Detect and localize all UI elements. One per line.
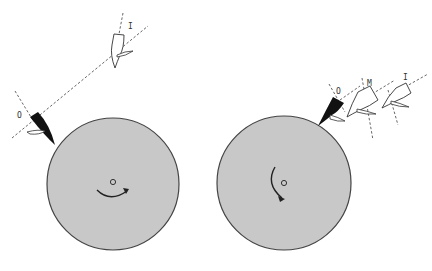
label-m-right: M: [367, 79, 372, 88]
label-o-right: O: [336, 87, 341, 96]
label-i-right: I: [403, 73, 408, 82]
tool-edge: [27, 130, 45, 134]
tool-edge-m: [357, 109, 376, 114]
tool-outline-i: [111, 34, 124, 68]
right-panel: O M I: [217, 73, 428, 250]
dashed-cross-line-i: [119, 13, 123, 34]
grinding-wheel: [217, 116, 351, 250]
dashed-axis-line-i: [405, 74, 428, 87]
dashed-axis-line-m: [372, 80, 395, 94]
tool-tip-black: [318, 97, 344, 126]
diagram-canvas: I O O M I: [0, 0, 432, 271]
tool-tip-black: [30, 112, 55, 145]
left-panel: I O: [12, 13, 179, 250]
tool-edge-i: [391, 101, 409, 107]
grinding-wheel: [47, 118, 179, 250]
tool-edge: [330, 115, 345, 121]
label-o-left: O: [17, 111, 22, 120]
label-i-left: I: [128, 22, 133, 31]
